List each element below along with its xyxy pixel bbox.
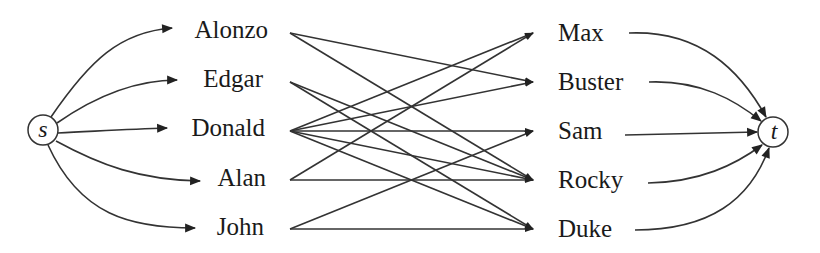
node-john: John — [217, 213, 265, 240]
edge-sam-t — [625, 132, 757, 135]
node-rocky: Rocky — [558, 166, 624, 193]
node-donald: Donald — [191, 114, 265, 141]
node-max: Max — [558, 19, 604, 46]
node-sam: Sam — [558, 117, 603, 144]
edge-s-alonzo — [51, 28, 172, 117]
right-nodes: Max Buster Sam Rocky Duke — [558, 19, 624, 242]
source-node: s — [28, 115, 58, 145]
flow-network-diagram: s t Alonzo Edgar Donald Alan John — [0, 0, 820, 253]
node-alonzo: Alonzo — [194, 16, 268, 43]
sink-node: t — [758, 117, 788, 147]
edge-s-edgar — [57, 80, 177, 123]
edge-donald-max — [290, 33, 533, 131]
edge-rocky-t — [648, 145, 762, 183]
edge-duke-t — [635, 148, 769, 230]
source-edges — [48, 28, 200, 228]
edge-s-donald — [58, 128, 167, 133]
node-buster: Buster — [558, 68, 624, 95]
node-edgar: Edgar — [203, 65, 263, 92]
node-duke: Duke — [558, 215, 612, 242]
bipartite-edges — [290, 33, 533, 229]
edge-max-t — [629, 33, 766, 117]
edge-alonzo-buster — [290, 33, 533, 82]
edge-donald-rocky — [290, 131, 533, 180]
edge-s-alan — [56, 141, 200, 181]
sink-edges — [625, 33, 769, 230]
source-label: s — [38, 116, 47, 142]
edge-buster-t — [649, 82, 761, 121]
edge-s-john — [48, 145, 195, 228]
left-nodes: Alonzo Edgar Donald Alan John — [191, 16, 268, 240]
node-alan: Alan — [217, 164, 266, 191]
